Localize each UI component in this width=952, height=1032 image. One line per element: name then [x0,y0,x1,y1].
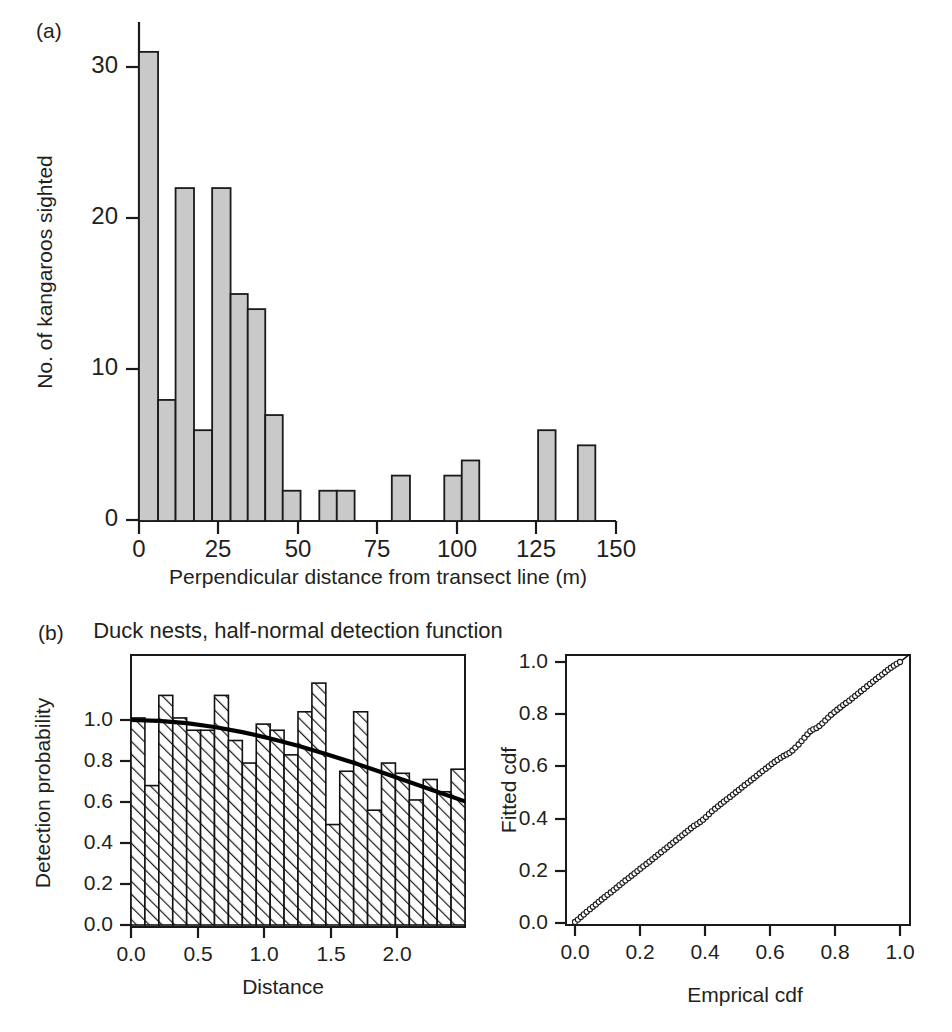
detection-histogram-bar [270,730,284,925]
panel-a-ytick-10: 10 [91,353,118,380]
detection-histogram-bar [382,763,396,925]
qq-ytick-02: 0.2 [519,858,548,881]
panel-b-left-ytick-02: 0.2 [84,871,113,894]
panel-b-left-xtick-15: 1.5 [316,942,345,965]
panel-b-left-ytick-00: 0.0 [84,912,113,935]
qq-points [572,659,902,924]
panel-a-ytick-20: 20 [91,202,118,229]
histogram-bar [248,309,265,521]
panel-a-xtick-150: 150 [596,535,636,562]
panel-b-left-x-axis-title: Distance [242,975,324,998]
detection-histogram-bar [326,825,340,925]
detection-histogram-bar [159,695,173,925]
qq-ytick-10: 1.0 [519,649,548,672]
panel-b-left-ytick-06: 0.6 [84,789,113,812]
panel-a-xtick-125: 125 [516,535,556,562]
qq-ytick-08: 0.8 [519,701,548,724]
histogram-bar [265,415,282,521]
qq-ytick-00: 0.0 [519,910,548,933]
detection-histogram-bar [201,730,215,925]
qq-xtick-08: 0.8 [820,940,849,963]
detection-histogram-bar [354,712,368,925]
histogram-bar [462,460,479,521]
panel-b-left-xtick-10: 1.0 [249,942,278,965]
detection-histogram-bar [187,730,201,925]
panel-b-left-bars [131,683,465,925]
qq-xtick-06: 0.6 [755,940,784,963]
figure-canvas: (a) 0 10 20 30 [0,0,952,1032]
histogram-bar [194,430,212,521]
panel-b-left-ytick-04: 0.4 [84,830,114,853]
histogram-bar [139,52,158,521]
detection-histogram-bar [256,724,270,925]
panel-b-left-ytick-10: 1.0 [84,707,113,730]
histogram-bar [444,476,461,521]
panel-a-xtick-50: 50 [285,535,312,562]
detection-histogram-bar [409,800,423,925]
detection-histogram-bar [437,792,451,925]
panel-b-left-xtick-00: 0.0 [116,942,145,965]
qq-ytick-06: 0.6 [519,753,548,776]
histogram-bar [158,400,175,521]
detection-histogram-bar [368,810,382,925]
panel-a-xtick-75: 75 [364,535,391,562]
detection-histogram-bar [423,779,437,925]
detection-histogram-bar [228,741,242,926]
detection-histogram-bar [340,771,354,925]
qq-ytick-04: 0.4 [519,806,549,829]
panel-b-left-xtick-05: 0.5 [183,942,212,965]
panel-a-x-axis-title: Perpendicular distance from transect lin… [169,565,587,588]
qq-x-ticks: 0.0 0.2 0.4 0.6 0.8 1.0 [560,925,914,963]
histogram-bar [231,294,248,521]
panel-b-left-y-axis-title: Detection probability [31,697,54,888]
qq-xtick-02: 0.2 [625,940,654,963]
detection-histogram-bar [145,786,159,925]
detection-histogram-bar [284,755,298,925]
panel-b-left: (b) Duck nests, half-normal detection fu… [31,618,503,998]
qq-point [897,659,902,664]
qq-xtick-00: 0.0 [560,940,589,963]
histogram-bar [538,430,555,521]
qq-x-axis-title: Emprical cdf [687,983,803,1006]
detection-histogram-bar [242,763,256,925]
qq-xtick-04: 0.4 [690,940,720,963]
qq-y-ticks: 0.0 0.2 0.4 0.6 0.8 1.0 [519,649,566,933]
figure-root: (a) 0 10 20 30 [0,0,952,1032]
panel-b-left-x-ticks: 0.0 0.5 1.0 1.5 2.0 [116,927,411,965]
detection-histogram-bar [451,769,465,925]
panel-a-y-axis-title: No. of kangaroos sighted [33,155,56,388]
histogram-bar [392,476,410,521]
panel-b-left-y-ticks: 0.0 0.2 0.4 0.6 0.8 1.0 [84,707,131,935]
panel-a-xtick-100: 100 [437,535,477,562]
panel-b-label: (b) [38,621,64,644]
panel-a-xtick-25: 25 [205,535,232,562]
panel-b-left-xtick-20: 2.0 [382,942,411,965]
histogram-bar [212,188,230,521]
panel-a-xtick-0: 0 [132,535,145,562]
detection-histogram-bar [131,718,145,925]
detection-histogram-bar [298,712,312,925]
panel-a-y-ticks: 0 10 20 30 [91,51,139,531]
histogram-bar [176,188,194,521]
panel-a: (a) 0 10 20 30 [33,19,636,588]
panel-a-label: (a) [36,19,62,42]
detection-histogram-bar [395,773,409,925]
histogram-bar [319,491,336,521]
panel-a-ytick-30: 30 [91,51,118,78]
panel-a-bars [139,52,595,521]
detection-histogram-bar [312,683,326,925]
panel-b-left-ytick-08: 0.8 [84,748,113,771]
histogram-bar [283,491,301,521]
histogram-bar [337,491,355,521]
panel-b-left-title: Duck nests, half-normal detection functi… [93,618,503,643]
qq-xtick-10: 1.0 [885,940,914,963]
qq-y-axis-title: Fitted cdf [497,747,520,834]
panel-a-ytick-0: 0 [105,504,118,531]
detection-histogram-bar [173,718,187,925]
panel-b-right: 0.0 0.2 0.4 0.6 0.8 1.0 0.0 0.2 0.4 0.6 … [497,649,915,1006]
panel-a-x-ticks: 0 25 50 75 100 125 150 [132,521,636,562]
histogram-bar [578,445,595,521]
